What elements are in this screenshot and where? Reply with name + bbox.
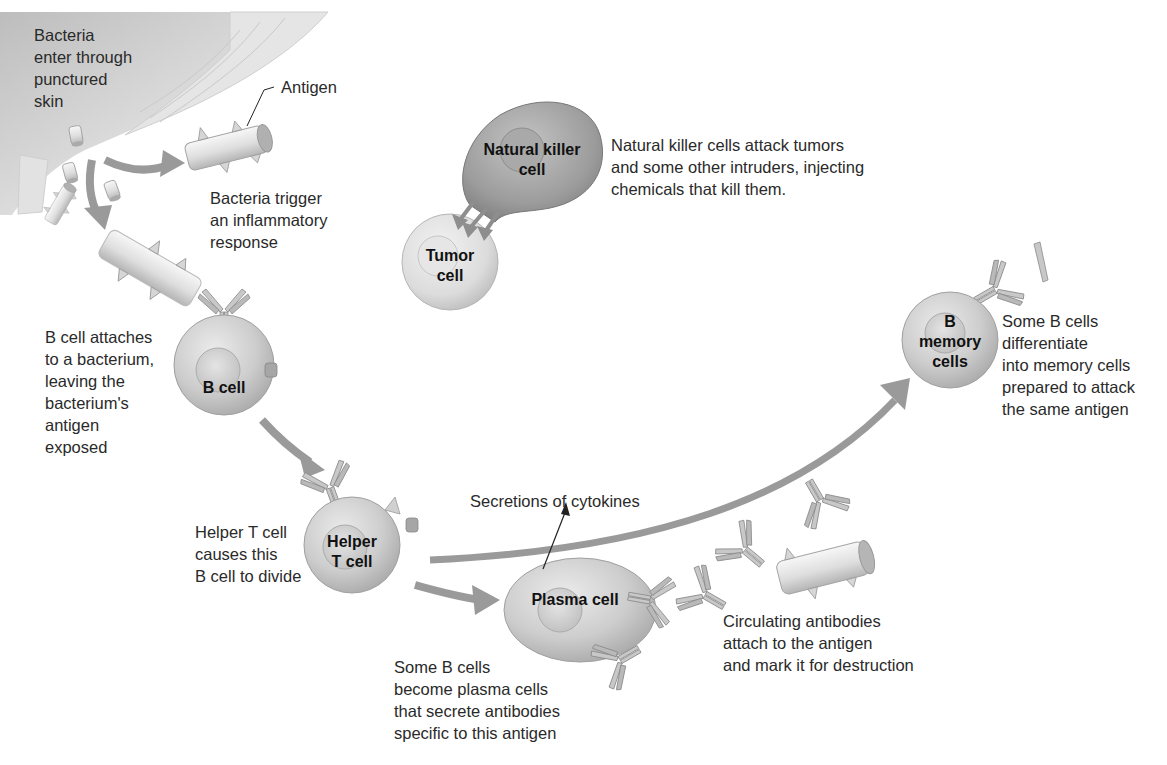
antigen-pointer-line (247, 90, 264, 126)
plasma-cell (504, 502, 656, 662)
label-helper-t-cell: Helper T cell (322, 532, 382, 572)
label-plasma-cell: Plasma cell (520, 590, 630, 610)
caption-circulating-antibodies: Circulating antibodies attach to the ant… (723, 610, 914, 676)
bacterium-inflammatory (181, 111, 278, 181)
caption-nk-description: Natural killer cells attack tumors and s… (611, 134, 864, 200)
caption-antigen: Antigen (281, 76, 337, 98)
arrow-to-memory-cells (430, 378, 910, 560)
bacterium-marked (773, 528, 881, 606)
caption-plasma-description: Some B cells become plasma cells that se… (394, 656, 560, 744)
helper-t-cell (298, 457, 418, 593)
label-tumor-cell: Tumor cell (415, 246, 485, 286)
caption-bacteria-trigger: Bacteria trigger an inflammatory respons… (210, 187, 327, 253)
arrow-bcell-to-helper (262, 420, 325, 478)
arrow-to-inflammation (105, 150, 185, 177)
bacterium-attached (91, 217, 210, 318)
label-b-cell: B cell (194, 378, 254, 398)
caption-bacteria-enter: Bacteria enter through punctured skin (34, 24, 132, 112)
caption-b-cell-attaches: B cell attaches to a bacterium, leaving … (45, 326, 154, 458)
immune-response-diagram (0, 0, 1167, 765)
caption-helper-t-causes: Helper T cell causes this B cell to divi… (195, 521, 301, 587)
arrow-helper-to-plasma (415, 585, 500, 615)
caption-memory-description: Some B cells differentiate into memory c… (1002, 310, 1135, 420)
caption-cytokines: Secretions of cytokines (470, 490, 640, 512)
label-natural-killer-cell: Natural killer cell (476, 140, 588, 180)
label-b-memory-cells: B memory cells (915, 312, 985, 372)
